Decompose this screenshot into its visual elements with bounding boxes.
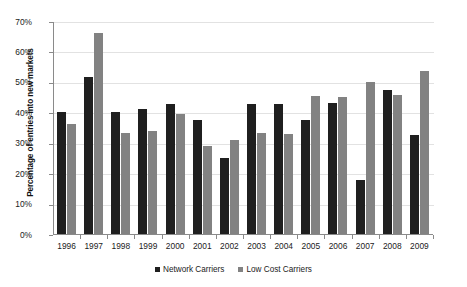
plot-area	[53, 22, 433, 235]
x-axis-tick-mark	[162, 235, 163, 239]
legend-label: Network Carriers	[163, 265, 224, 274]
bar-low-cost-carriers-2004	[284, 134, 293, 234]
bar-network-carriers-2004	[274, 104, 283, 234]
bar-group	[217, 21, 244, 234]
bar-network-carriers-2001	[193, 120, 202, 234]
bar-group	[81, 21, 108, 234]
bar-network-carriers-1999	[138, 109, 147, 234]
x-axis-tick-mark	[406, 235, 407, 239]
bar-network-carriers-2006	[328, 103, 337, 234]
y-axis-tick-mark	[49, 235, 53, 236]
bar-group	[271, 21, 298, 234]
bar-low-cost-carriers-2005	[311, 96, 320, 234]
x-axis-tick-mark	[270, 235, 271, 239]
bar-low-cost-carriers-1999	[148, 131, 157, 234]
legend-item: Network Carriers	[155, 265, 224, 274]
bar-network-carriers-2008	[383, 90, 392, 234]
bar-network-carriers-2000	[166, 104, 175, 234]
bar-group	[407, 21, 434, 234]
bar-low-cost-carriers-2008	[393, 95, 402, 234]
bar-low-cost-carriers-1996	[67, 124, 76, 234]
bar-group	[190, 21, 217, 234]
y-axis-tick-label: 30%	[0, 138, 32, 148]
x-axis-tick-mark	[297, 235, 298, 239]
x-axis-tick-mark	[433, 235, 434, 239]
legend-swatch-icon	[238, 267, 243, 272]
x-axis-tick-mark	[324, 235, 325, 239]
x-axis-tick-label-2009: 2009	[402, 241, 436, 251]
bar-group	[135, 21, 162, 234]
y-axis-tick-label: 60%	[0, 47, 32, 57]
bar-network-carriers-2005	[301, 120, 310, 234]
x-axis-tick-mark	[216, 235, 217, 239]
bar-network-carriers-2003	[247, 104, 256, 234]
bar-network-carriers-1996	[57, 112, 66, 234]
bar-chart: Percentage of entries into new markets 7…	[0, 0, 467, 287]
bar-low-cost-carriers-2003	[257, 133, 266, 234]
y-axis-tick-label: 40%	[0, 108, 32, 118]
bar-low-cost-carriers-2002	[230, 140, 239, 234]
x-axis-tick-mark	[134, 235, 135, 239]
bar-network-carriers-2009	[410, 135, 419, 234]
bar-group	[298, 21, 325, 234]
legend-item: Low Cost Carriers	[238, 265, 312, 274]
y-axis-tick-label: 20%	[0, 169, 32, 179]
bar-group	[325, 21, 352, 234]
bar-low-cost-carriers-2000	[176, 114, 185, 234]
x-axis-tick-mark	[189, 235, 190, 239]
x-axis-tick-mark	[80, 235, 81, 239]
bar-low-cost-carriers-2009	[420, 71, 429, 234]
bar-network-carriers-1997	[84, 77, 93, 234]
chart-legend: Network CarriersLow Cost Carriers	[0, 265, 467, 274]
bar-network-carriers-1998	[111, 112, 120, 234]
legend-swatch-icon	[155, 267, 160, 272]
x-axis-tick-mark	[379, 235, 380, 239]
bar-low-cost-carriers-2001	[203, 146, 212, 234]
bar-group	[54, 21, 81, 234]
x-axis-tick-mark	[107, 235, 108, 239]
bar-group	[244, 21, 271, 234]
bar-group	[163, 21, 190, 234]
bar-network-carriers-2002	[220, 158, 229, 234]
y-axis-tick-label: 10%	[0, 199, 32, 209]
bar-low-cost-carriers-1997	[94, 33, 103, 234]
bar-network-carriers-2007	[356, 180, 365, 234]
bar-group	[108, 21, 135, 234]
bar-group	[353, 21, 380, 234]
bar-low-cost-carriers-2007	[366, 82, 375, 234]
bar-low-cost-carriers-1998	[121, 133, 130, 234]
x-axis-tick-mark	[352, 235, 353, 239]
x-axis-tick-mark	[243, 235, 244, 239]
y-axis-tick-label: 70%	[0, 17, 32, 27]
legend-label: Low Cost Carriers	[246, 265, 312, 274]
y-axis-tick-label: 0%	[0, 230, 32, 240]
bar-low-cost-carriers-2006	[338, 97, 347, 234]
bar-group	[380, 21, 407, 234]
y-axis-tick-label: 50%	[0, 77, 32, 87]
